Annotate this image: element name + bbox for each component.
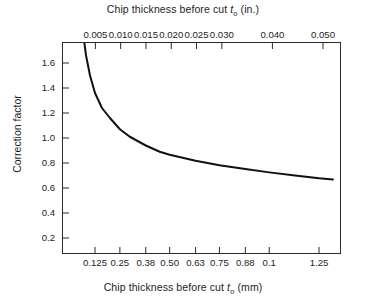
plot-frame (63, 43, 341, 254)
tick-label: 0.040 (260, 29, 284, 40)
correction-factor-curve (83, 33, 333, 180)
tick-label: 0.88 (236, 257, 255, 268)
tick-label: 0.1 (263, 257, 276, 268)
chart-figure: Chip thickness before cut to (in.) Chip … (0, 0, 366, 301)
tick-label: 0.010 (109, 29, 133, 40)
tick-label: 0.2 (42, 232, 55, 243)
tick-label: 1.25 (310, 257, 329, 268)
tick-label: 1.0 (42, 132, 55, 143)
tick-label: 0.050 (311, 29, 335, 40)
tick-label: 0.8 (42, 157, 55, 168)
tick-label: 0.030 (210, 29, 234, 40)
tick-label: 1.2 (42, 107, 55, 118)
top-tick-label-group: 0.0050.0100.0150.0200.0250.0300.0400.050 (83, 29, 335, 40)
plot-area: 0.0050.0100.0150.0200.0250.0300.0400.050… (0, 0, 366, 301)
tick-label: 0.125 (83, 257, 107, 268)
tick-label: 0.38 (136, 257, 155, 268)
y-tick-label-group: 1.61.41.21.00.80.60.40.2 (42, 57, 56, 243)
tick-label: 0.015 (134, 29, 158, 40)
tick-label: 0.005 (83, 29, 107, 40)
tick-label: 1.6 (42, 57, 55, 68)
tick-label: 0.50 (160, 257, 179, 268)
tick-label: 0.6 (42, 182, 55, 193)
tickmark-group (63, 43, 323, 253)
tick-label: 0.025 (185, 29, 209, 40)
tick-label: 0.75 (210, 257, 229, 268)
tick-label: 0.25 (111, 257, 130, 268)
tick-label: 0.63 (186, 257, 205, 268)
tick-label: 0.020 (159, 29, 183, 40)
bottom-tick-label-group: 0.1250.250.380.500.630.750.880.11.25 (83, 257, 328, 268)
tick-label: 1.4 (42, 82, 56, 93)
tick-label: 0.4 (42, 207, 56, 218)
